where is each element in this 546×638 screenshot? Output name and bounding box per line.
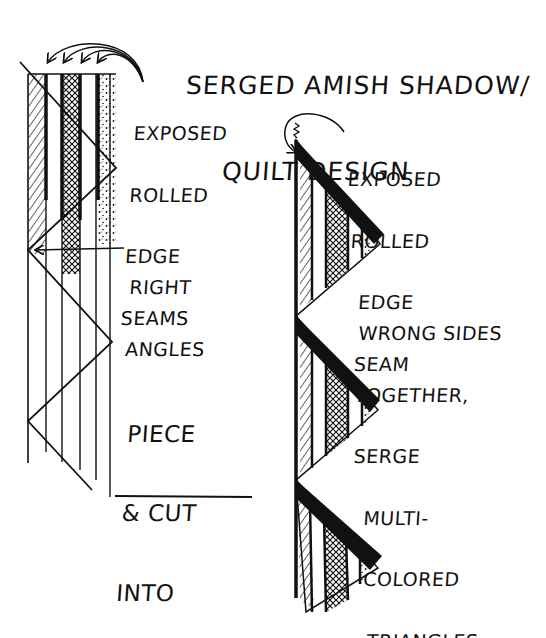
right-angles-label: RIGHT ANGLES [123, 236, 213, 380]
label-line: EXPOSED [133, 123, 228, 144]
label-line: MULTI- [345, 508, 500, 529]
label-line: RIGHT [129, 277, 210, 298]
label-line: ROLLED [129, 185, 224, 206]
strip-cross-hatch [62, 74, 80, 274]
label-line: TRIANGLES [336, 631, 491, 638]
piece-cut-label: PIECE & CUT INTO TRIANGLES [108, 368, 266, 638]
strip-diagonal-hatch [29, 74, 46, 254]
label-line: TOGETHER, [353, 385, 508, 406]
label-line: SERGE [349, 446, 504, 467]
label-line: EXPOSED [347, 169, 442, 190]
label-line: ROLLED [343, 231, 438, 252]
title-line-1: SERGED AMISH SHADOW/ [185, 72, 531, 101]
label-line: WRONG SIDES [358, 323, 513, 344]
label-line: ANGLES [124, 339, 205, 360]
label-line: COLORED [340, 569, 495, 590]
label-line: INTO [115, 580, 251, 606]
label-line: PIECE [126, 421, 262, 447]
label-line: & CUT [121, 500, 257, 526]
